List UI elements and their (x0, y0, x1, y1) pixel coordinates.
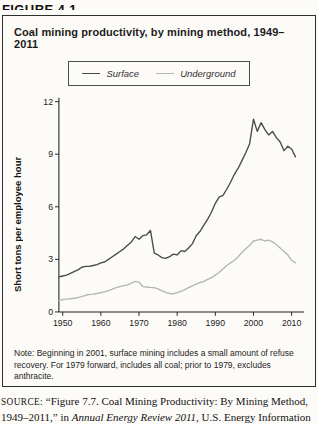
svg-text:1950: 1950 (53, 318, 73, 328)
y-axis-title: Short tons per employee hour (11, 89, 24, 343)
source-italic-title: Annual Energy Review 2011 (72, 411, 196, 423)
legend-label-surface: Surface (106, 68, 139, 79)
legend-frame: Surface Underground (68, 61, 249, 86)
chart-legend: Surface Underground (11, 61, 307, 86)
source-label: SOURCE: (1, 397, 43, 407)
legend-item-underground: Underground (156, 68, 235, 79)
legend-item-surface: Surface (82, 68, 139, 79)
svg-text:3: 3 (48, 254, 53, 264)
underground-line-swatch (156, 73, 174, 74)
source-citation: SOURCE: “Figure 7.7. Coal Mining Product… (1, 394, 317, 424)
svg-text:12: 12 (43, 97, 53, 107)
legend-label-underground: Underground (180, 68, 235, 79)
svg-text:6: 6 (48, 202, 53, 212)
svg-text:1970: 1970 (129, 318, 149, 328)
svg-text:1960: 1960 (91, 318, 111, 328)
svg-text:2000: 2000 (244, 318, 264, 328)
surface-line-swatch (82, 73, 100, 74)
page: FIGURE 4.1 Coal mining productivity, by … (0, 0, 318, 424)
svg-text:0: 0 (48, 307, 53, 317)
chart-area: Short tons per employee hour 03691219501… (11, 89, 307, 343)
figure-box: Coal mining productivity, by mining meth… (2, 15, 316, 387)
svg-text:1980: 1980 (167, 318, 187, 328)
figure-title: Coal mining productivity, by mining meth… (11, 26, 307, 50)
line-chart: 0369121950196019701980199020002010 (24, 89, 307, 343)
figure-label: FIGURE 4.1 (2, 0, 318, 10)
svg-text:9: 9 (48, 149, 53, 159)
svg-text:2010: 2010 (282, 318, 302, 328)
figure-note: Note: Beginning in 2001, surface mining … (11, 348, 307, 383)
svg-text:1990: 1990 (206, 318, 226, 328)
figure-label-text: FIGURE 4.1 (2, 3, 77, 10)
